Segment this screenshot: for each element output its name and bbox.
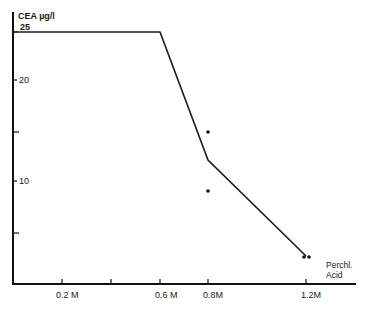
y-label-20: 20: [19, 75, 29, 85]
data-point: [307, 255, 311, 259]
y-axis-title: CEA µg/l: [18, 11, 55, 21]
data-point: [206, 189, 210, 193]
x-label-0.2: 0.2 M: [56, 290, 79, 300]
x-label-0.6: 0.6 M: [155, 290, 178, 300]
cea-curve: [13, 32, 306, 256]
y-label-10: 10: [19, 176, 29, 186]
data-point: [302, 255, 306, 259]
y-label-25: 25: [20, 22, 30, 32]
x-label-1.2: 1.2M: [301, 290, 321, 300]
chart-plot: [0, 0, 369, 311]
data-point: [206, 130, 210, 134]
x-axis-title-line2: Acid: [326, 270, 343, 280]
x-label-0.8: 0.8M: [203, 290, 223, 300]
x-axis-title-line1: Perchl.: [326, 260, 352, 270]
